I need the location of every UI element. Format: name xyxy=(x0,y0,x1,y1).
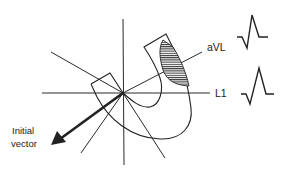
initial-vector-arrow xyxy=(51,93,123,145)
arrowhead-icon xyxy=(51,131,66,145)
lead-avl-label: aVL xyxy=(207,41,226,53)
lower-right-axis xyxy=(123,93,165,158)
lead-axes xyxy=(42,19,210,165)
heart-outline xyxy=(91,34,191,139)
lower-left-axis xyxy=(81,93,123,153)
vector-label-line2: vector xyxy=(11,138,37,149)
l1-waveform xyxy=(241,68,274,104)
avl-waveform xyxy=(237,15,268,48)
heart-outer-wall xyxy=(91,34,191,139)
lead-l1-label: L1 xyxy=(215,87,227,99)
avr-axis xyxy=(51,52,123,93)
ecg-vector-diagram: aVL L1 Initial vector xyxy=(0,0,287,174)
vector-label-line1: Initial xyxy=(12,125,34,136)
hatched-region xyxy=(160,40,189,86)
